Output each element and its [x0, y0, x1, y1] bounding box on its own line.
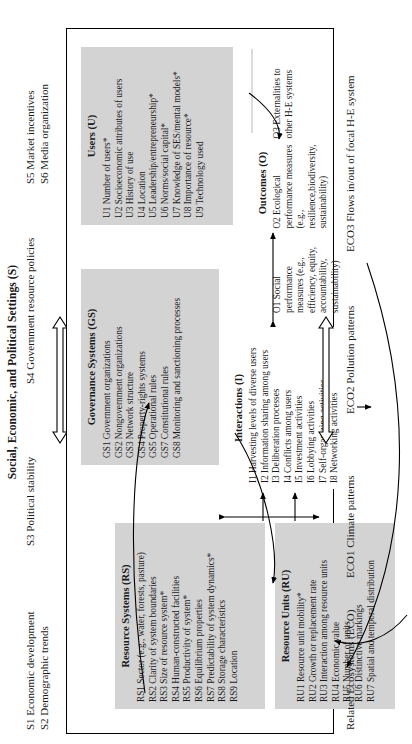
resource-systems-list: RS1 Sector (e.g., water, forests, pastur…	[136, 523, 240, 709]
list-item: U8 Importance of resource*	[183, 47, 195, 218]
list-item: U2 Socioeconomic attributes of users	[114, 47, 126, 218]
resource-systems-box: Resource Systems (RS) RS1 Sector (e.g., …	[115, 523, 265, 709]
list-item: U4 Location	[137, 47, 149, 218]
list-item: GS1 Government organizations	[102, 269, 114, 458]
resource-units-title: Resource Units (RU)	[280, 523, 291, 709]
settings-item-s1: S1 Economic development	[24, 611, 38, 730]
governance-systems-title: Governance Systems (GS)	[86, 269, 97, 465]
related-ecosystems-label: Related Ecosystems (ECO)	[344, 610, 356, 730]
outcomes-box: Outcomes (O) O1 Social performance measu…	[253, 49, 329, 317]
users-title: Users (U)	[86, 47, 97, 225]
list-item: U9 Technology used	[195, 47, 207, 218]
settings-mid-column: S3 Political stability	[24, 457, 38, 546]
list-item: RS2 Clarity of system boundaries	[148, 523, 160, 702]
list-item: RU7 Spatial and temporal distribution	[366, 523, 378, 702]
users-box: Users (U) U1 Number of users* U2 Socioec…	[81, 47, 233, 225]
list-item: GS4 Property-rights systems	[137, 269, 149, 458]
list-item: U3 History of use	[125, 47, 137, 218]
list-item: RS3 Size of resource system*	[159, 523, 171, 702]
list-item: U1 Number of users*	[102, 47, 114, 218]
outcomes-columns: O1 Social performance measures (e.g., ef…	[272, 49, 342, 317]
list-item: RS5 Productivity of system*	[182, 523, 194, 702]
list-item: GS5 Operational rules	[148, 269, 160, 458]
settings-item-s6: S6 Media organization	[38, 84, 52, 184]
list-item: RU2 Growth or replacement rate	[308, 523, 320, 702]
list-item: U6 Norms/social capital*	[160, 47, 172, 218]
list-item: RS6 Equilibrium properties	[194, 523, 206, 702]
resource-units-list: RU1 Resource unit mobility* RU2 Growth o…	[296, 523, 377, 709]
list-item: RS4 Human-constructed facilities	[171, 523, 183, 702]
outcome-o3: O3 Externalities to other H-E systems	[272, 53, 342, 139]
settings-item-s5: S5 Market incentives	[24, 84, 38, 184]
ecosystems-item-eco3: ECO3 Flows in/out of focal H-E system	[344, 75, 356, 252]
list-item: I6 Lobbying activities	[306, 327, 318, 483]
outcome-o2: O2 Ecological performance measures (e.g.…	[272, 145, 342, 229]
list-item: RS9 Location	[229, 523, 241, 702]
outcome-o1: O1 Social performance measures (e.g., ef…	[272, 235, 342, 313]
settings-right-column: S5 Market incentives S6 Media organizati…	[24, 84, 51, 184]
settings-item-s3: S3 Political stability	[24, 457, 38, 546]
interactions-title: Interactions (I)	[233, 327, 244, 489]
settings-left-column: S1 Economic development S2 Demographic t…	[24, 611, 51, 730]
list-item: RU1 Resource unit mobility*	[296, 523, 308, 702]
users-list: U1 Number of users* U2 Socioeconomic att…	[102, 47, 206, 225]
list-item: U7 Knowledge of SES/mental models*	[172, 47, 184, 218]
list-item: I4 Conflicts among users	[283, 327, 295, 483]
list-item: GS8 Monitoring and sanctioning processes	[172, 269, 184, 458]
ecosystems-item-eco2: ECO2 Pollution patterns	[344, 306, 356, 414]
list-item: GS3 Network structure	[125, 269, 137, 458]
outcomes-title: Outcomes (O)	[257, 49, 268, 317]
governance-systems-box: Governance Systems (GS) GS1 Government o…	[81, 269, 219, 465]
settings-title: Social, Economic, and Political Settings…	[6, 0, 18, 744]
list-item: U5 Leadership/entrepreneurship*	[148, 47, 160, 218]
list-item: GS2 Nongovernment organizations	[114, 269, 126, 458]
settings-item-s2: S2 Demographic trends	[38, 611, 52, 730]
settings-mid2-column: S4 Government resource policies	[24, 238, 38, 384]
list-item: I1 Harvesting levels of diverse users	[248, 327, 260, 483]
list-item: RU3 Interaction among resource units	[319, 523, 331, 702]
list-item: RS1 Sector (e.g., water, forests, pastur…	[136, 523, 148, 702]
related-ecosystems-band: Related Ecosystems (ECO) ECO1 Climate pa…	[340, 0, 364, 744]
ecosystems-item-eco1: ECO1 Climate patterns	[344, 475, 356, 578]
resource-systems-title: Resource Systems (RS)	[120, 523, 131, 709]
list-item: RS8 Storage characteristics	[217, 523, 229, 702]
list-item: I3 Deliberation processes	[271, 327, 283, 483]
list-item: I2 Information sharing among users	[260, 327, 272, 483]
list-item: RS7 Predictability of system dynamics*	[206, 523, 218, 702]
resource-units-box: Resource Units (RU) RU1 Resource unit mo…	[275, 523, 395, 709]
governance-systems-list: GS1 Government organizations GS2 Nongove…	[102, 269, 183, 465]
list-item: I5 Investment activities	[294, 327, 306, 483]
focal-ses-frame: Resource Systems (RS) RS1 Sector (e.g., …	[66, 28, 334, 734]
list-item: GS7 Constitutional rules	[160, 269, 172, 458]
ecosystems-exchange-arrow	[318, 316, 338, 444]
settings-item-s4: S4 Government resource policies	[24, 238, 38, 384]
